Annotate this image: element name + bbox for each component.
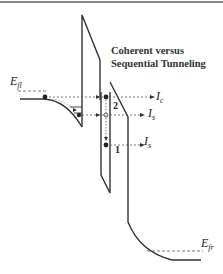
ic-sub: c — [160, 96, 164, 105]
efl-sub: fl — [17, 81, 21, 90]
electron-level1 — [104, 143, 109, 148]
is-upper-barrier-arrow — [96, 113, 100, 117]
band-diagram — [0, 0, 223, 274]
left-barrier — [82, 15, 100, 127]
level-1-label: 1 — [115, 144, 120, 155]
title-line-1: Coherent versus — [111, 44, 206, 57]
electron-level2 — [104, 95, 109, 100]
diagram-title: Coherent versus Sequential Tunneling — [111, 44, 206, 70]
label-efr: Efr — [201, 236, 214, 252]
ic-arrowhead — [150, 95, 155, 99]
left-band-edge — [20, 99, 82, 127]
title-line-2: Sequential Tunneling — [111, 57, 206, 70]
electron-emitter — [43, 95, 48, 100]
level-2-label: 2 — [113, 100, 118, 111]
is-upper-arrowhead — [140, 113, 145, 117]
label-is-lower: Is — [144, 134, 151, 150]
label-is-upper: Is — [148, 106, 155, 122]
is-lower-sub: s — [148, 141, 151, 150]
right-barrier — [110, 82, 201, 260]
label-efl: Efl — [10, 74, 22, 90]
well-left-wall — [101, 92, 110, 193]
label-ic: Ic — [156, 89, 164, 105]
is-upper-sub: s — [152, 113, 155, 122]
relaxation-arrowhead — [104, 137, 108, 141]
efr-sub: fr — [208, 243, 213, 252]
emitter-relax-arrow — [73, 108, 77, 112]
electron-emitter-low — [77, 113, 81, 117]
